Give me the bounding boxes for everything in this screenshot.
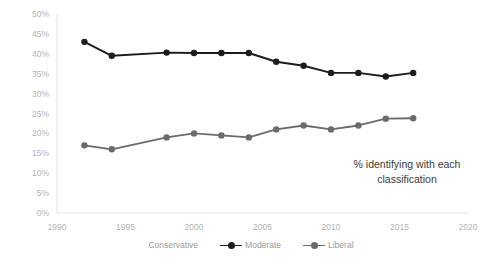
x-axis-tick-label: 2005 — [253, 222, 272, 232]
data-point-moderate — [218, 50, 224, 56]
legend-label-liberal: Liberal — [328, 240, 354, 250]
x-axis-tick-label: 2015 — [390, 222, 409, 232]
chart-annotation: % identifying with each classification — [322, 157, 492, 187]
y-axis-tick-label: 35% — [32, 69, 49, 79]
x-axis-tick-label: 1990 — [48, 222, 67, 232]
data-point-liberal — [218, 132, 224, 138]
data-point-moderate — [191, 50, 197, 56]
y-axis-tick-label: 20% — [32, 128, 49, 138]
data-point-moderate — [300, 63, 306, 69]
y-axis-tick-label: 0% — [37, 208, 50, 218]
y-axis-tick-label: 5% — [37, 188, 50, 198]
data-point-moderate — [383, 73, 389, 79]
data-point-liberal — [81, 142, 87, 148]
legend-item-moderate[interactable]: Moderate — [220, 240, 281, 250]
legend-item-liberal[interactable]: Liberal — [303, 240, 354, 250]
data-point-liberal — [163, 134, 169, 140]
annotation-line-2: classification — [322, 172, 492, 187]
data-point-liberal — [328, 126, 334, 132]
chart-canvas: 0%5%10%15%20%25%30%35%40%45%50%199019952… — [0, 0, 499, 265]
line-chart: 0%5%10%15%20%25%30%35%40%45%50%199019952… — [0, 0, 499, 265]
data-point-moderate — [81, 39, 87, 45]
y-axis-tick-label: 25% — [32, 109, 49, 119]
annotation-line-1: % identifying with each — [322, 157, 492, 172]
y-axis-tick-label: 45% — [32, 29, 49, 39]
data-point-liberal — [246, 134, 252, 140]
series-line-moderate — [84, 42, 413, 77]
x-axis-tick-label: 2010 — [322, 222, 341, 232]
data-point-liberal — [273, 126, 279, 132]
legend-marker-moderate-icon — [220, 241, 242, 250]
data-point-moderate — [163, 49, 169, 55]
y-axis-tick-label: 40% — [32, 49, 49, 59]
data-point-moderate — [273, 59, 279, 65]
legend-label-conservative: Conservative — [148, 240, 198, 250]
x-axis-tick-label: 2000 — [185, 222, 204, 232]
x-axis-tick-label: 1995 — [116, 222, 135, 232]
data-point-liberal — [383, 115, 389, 121]
data-point-liberal — [300, 122, 306, 128]
data-point-liberal — [191, 130, 197, 136]
y-axis-tick-label: 30% — [32, 89, 49, 99]
legend-label-moderate: Moderate — [245, 240, 281, 250]
data-point-moderate — [410, 70, 416, 76]
data-point-moderate — [355, 70, 361, 76]
legend-marker-liberal-icon — [303, 241, 325, 250]
data-point-moderate — [328, 70, 334, 76]
y-axis-tick-label: 10% — [32, 168, 49, 178]
legend-item-conservative[interactable]: Conservative — [145, 240, 198, 250]
data-point-liberal — [355, 122, 361, 128]
y-axis-tick-label: 50% — [32, 9, 49, 19]
x-axis-tick-label: 2020 — [459, 222, 478, 232]
chart-legend: Conservative Moderate Liberal — [0, 240, 499, 250]
data-point-moderate — [109, 53, 115, 59]
series-line-liberal — [84, 118, 413, 149]
data-point-moderate — [246, 50, 252, 56]
data-point-liberal — [410, 115, 416, 121]
data-point-liberal — [109, 146, 115, 152]
y-axis-tick-label: 15% — [32, 148, 49, 158]
